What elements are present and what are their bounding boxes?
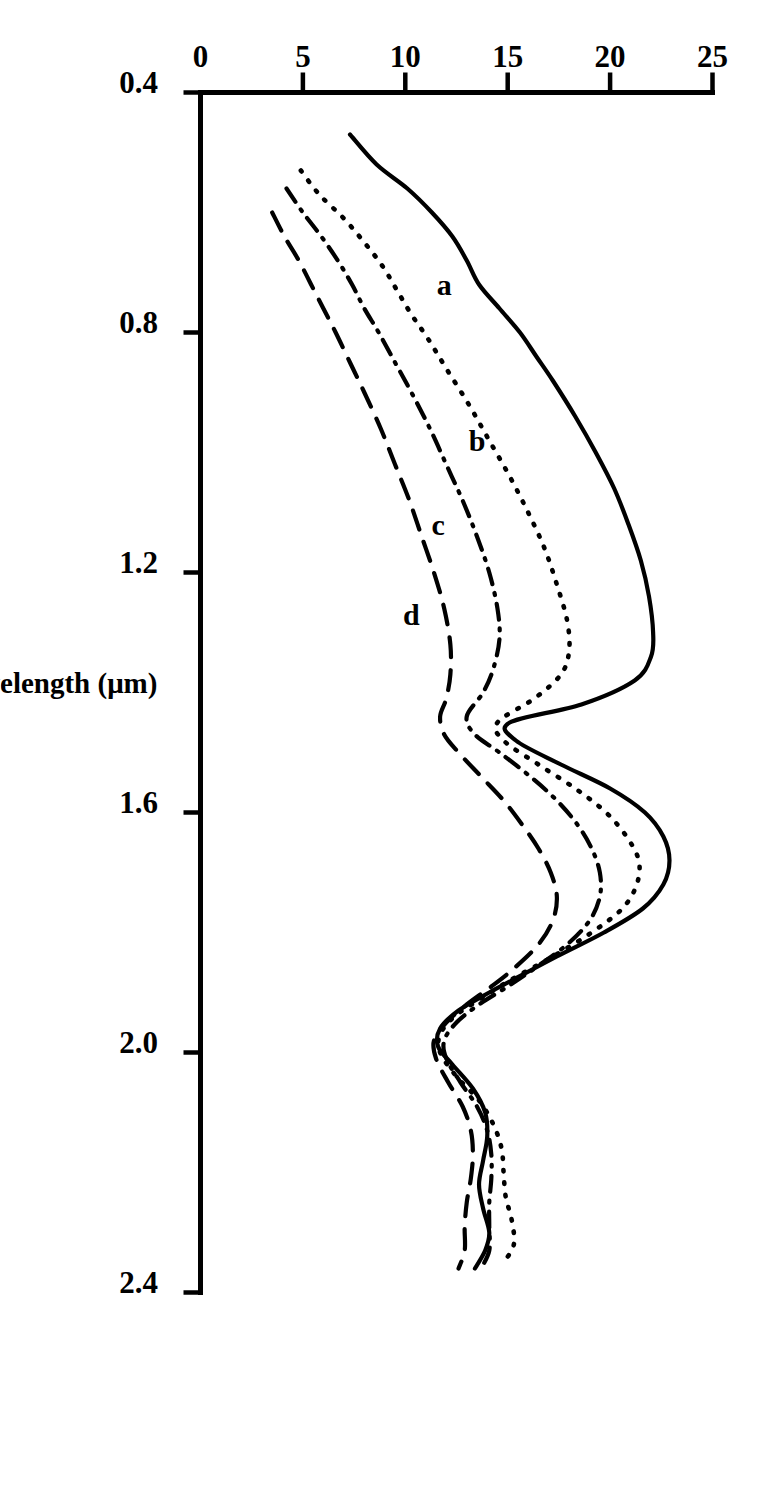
- series-label-b: b: [468, 424, 485, 457]
- x-tick-label: 0.4: [119, 64, 158, 99]
- y-tick-label: 20: [594, 39, 625, 74]
- x-axis-title: Wavelength (μm): [0, 666, 157, 699]
- x-tick-label: 1.6: [119, 784, 158, 819]
- x-tick-label: 0.8: [119, 304, 158, 339]
- series-label-d: d: [403, 598, 420, 631]
- series-label-a: a: [436, 268, 451, 301]
- y-tick-label: 25: [697, 39, 728, 74]
- y-tick-label: 0: [192, 39, 208, 74]
- y-tick-label: 10: [389, 39, 420, 74]
- series-curve-c: [286, 188, 600, 1268]
- rotated-figure-stage: 0.40.81.21.62.02.40510152025 abcd Wavele…: [0, 0, 763, 1493]
- axes-group: 0.40.81.21.62.02.40510152025: [119, 39, 728, 1300]
- reflectance-spectra-chart: 0.40.81.21.62.02.40510152025 abcd Wavele…: [0, 0, 763, 1493]
- x-tick-label: 2.0: [119, 1024, 158, 1059]
- series-curve-a: [350, 134, 669, 1268]
- series-label-c: c: [431, 508, 444, 541]
- curves-group: [272, 134, 669, 1268]
- x-tick-label: 1.2: [119, 544, 158, 579]
- x-tick-label: 2.4: [119, 1264, 158, 1299]
- figure-root: 0.40.81.21.62.02.40510152025 abcd Wavele…: [0, 0, 763, 1493]
- y-tick-label: 15: [492, 39, 523, 74]
- plot-area: 0.40.81.21.62.02.40510152025 abcd Wavele…: [0, 0, 763, 1493]
- y-tick-label: 5: [295, 39, 311, 74]
